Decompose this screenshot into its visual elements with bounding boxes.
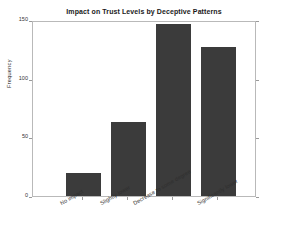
y-tick-mark-right: [256, 21, 259, 22]
bar-chart-figure: Impact on Trust Levels by Deceptive Patt…: [0, 0, 288, 252]
x-tick-mark: [217, 197, 218, 200]
y-axis-tick-label: 100: [19, 76, 28, 82]
y-axis-tick-label: 0: [25, 193, 28, 199]
x-tick-mark: [82, 197, 83, 200]
y-axis-tick-label: 50: [22, 134, 28, 140]
y-axis-tick-group-right: [256, 21, 262, 197]
y-axis-tick-label: 150: [19, 17, 28, 23]
y-tick-mark-right: [256, 197, 259, 198]
x-tick-mark: [127, 197, 128, 200]
bars-layer: [33, 22, 255, 196]
chart-title: Impact on Trust Levels by Deceptive Patt…: [32, 8, 256, 15]
bar-significantly-lower: [201, 47, 236, 196]
x-axis-label-group: No impact Slightly lower Decrease to som…: [32, 197, 256, 252]
y-tick-mark-right: [256, 138, 259, 139]
y-axis-tick-group: 0 50 100 150: [0, 21, 32, 197]
plot-area: [32, 21, 256, 197]
x-tick-mark: [172, 197, 173, 200]
y-tick-mark-right: [256, 80, 259, 81]
